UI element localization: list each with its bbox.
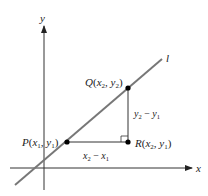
slope-diagram: y x l Q(x2, y2) P(x1, y1) R(x2, y1) y2 −…	[0, 0, 208, 196]
y-axis-label: y	[39, 12, 45, 24]
point-q-label: Q(x2, y2)	[85, 76, 123, 90]
point-q	[125, 85, 130, 90]
rise-label: y2 − y1	[133, 108, 160, 120]
point-r-label: R(x2, y1)	[134, 137, 172, 151]
line-l-label: l	[166, 52, 169, 64]
point-p	[64, 139, 69, 144]
point-p-label: P(x1, y1)	[21, 136, 59, 150]
point-r	[125, 139, 130, 144]
x-axis-label: x	[195, 162, 201, 174]
run-label: x2 − x1	[82, 150, 109, 162]
